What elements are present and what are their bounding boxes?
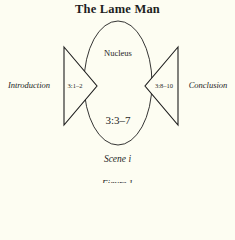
- scene-caption: Scene i: [0, 154, 235, 164]
- figure-label: Figure 1: [0, 178, 235, 183]
- introduction-label: Introduction: [3, 80, 55, 90]
- nucleus-range: 3:3–7: [93, 114, 143, 126]
- nucleus-label: Nucleus: [98, 48, 138, 58]
- conclusion-label: Conclusion: [184, 80, 232, 90]
- conclusion-range: 3:8–10: [150, 82, 178, 89]
- introduction-range: 3:1–2: [64, 82, 86, 89]
